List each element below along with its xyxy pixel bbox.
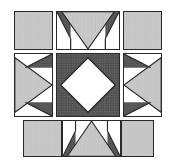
plain-light-square-shape bbox=[124, 12, 161, 49]
quilt-block-diagram bbox=[0, 0, 174, 166]
patch-bottom-left-plain-square bbox=[23, 120, 62, 157]
plain-light-square-shape bbox=[24, 121, 61, 156]
triangle-left-unit-shape bbox=[124, 54, 161, 116]
plain-light-square-shape bbox=[15, 12, 52, 49]
patch-center-diamond-square bbox=[56, 53, 120, 117]
patch-middle-left-unit bbox=[14, 53, 53, 117]
triangle-right-unit-shape bbox=[15, 54, 52, 116]
triangle-up-unit-shape bbox=[63, 121, 120, 156]
patch-bottom-right-plain-square bbox=[121, 120, 154, 157]
square-in-square-shape bbox=[57, 54, 119, 116]
patch-bottom-center-flying-geese bbox=[62, 120, 121, 157]
patch-top-center-flying-geese bbox=[56, 11, 120, 50]
triangle-down-unit-shape bbox=[57, 12, 119, 49]
patch-middle-right-unit bbox=[123, 53, 162, 117]
plain-light-square-shape bbox=[122, 121, 153, 156]
patch-top-left-plain-square bbox=[14, 11, 53, 50]
patch-top-right-plain-square bbox=[123, 11, 162, 50]
